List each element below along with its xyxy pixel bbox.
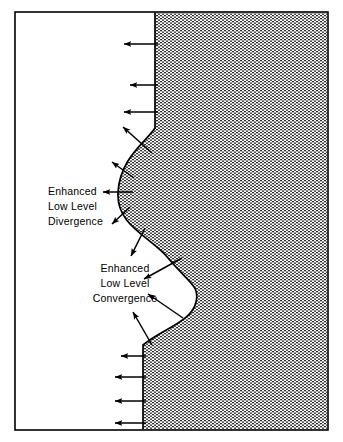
divergence-label: Enhanced Low Level Divergence xyxy=(48,185,103,227)
diagram-root: Enhanced Low Level Divergence Enhanced L… xyxy=(0,0,343,442)
diagram-canvas: Enhanced Low Level Divergence Enhanced L… xyxy=(0,0,343,442)
divergence-label-line-2: Low Level xyxy=(48,200,97,212)
convergence-label: Enhanced Low Level Convergence xyxy=(93,262,158,304)
divergence-label-line-3: Divergence xyxy=(48,215,103,227)
divergence-label-line-1: Enhanced xyxy=(48,185,97,197)
convergence-label-line-2: Low Level xyxy=(100,277,149,289)
convergence-label-line-3: Convergence xyxy=(93,292,158,304)
convergence-label-line-1: Enhanced xyxy=(101,262,150,274)
